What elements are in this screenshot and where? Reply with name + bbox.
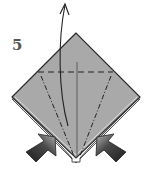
origami-diagram: 5 (0, 0, 151, 176)
step-number-label: 5 (12, 38, 22, 53)
diagram-drawing (0, 0, 151, 176)
push-arrow-right-icon (96, 134, 126, 162)
paper-diamond (12, 33, 140, 158)
push-arrow-left-icon (26, 134, 56, 162)
